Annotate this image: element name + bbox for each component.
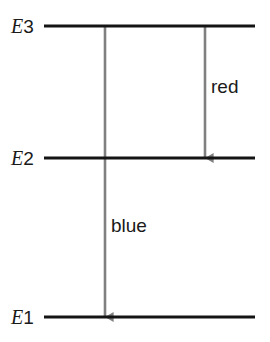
red-transition-label: red	[211, 77, 238, 96]
energy-level-label-e3: E3	[11, 16, 34, 36]
energy-level-label-e1: E1	[11, 307, 34, 327]
energy-index-e2: 2	[23, 148, 34, 169]
energy-level-lines	[44, 26, 255, 317]
energy-symbol-e3: E	[11, 15, 23, 37]
energy-symbol-e1: E	[11, 306, 23, 328]
energy-index-e3: 3	[23, 16, 34, 37]
energy-index-e1: 1	[23, 307, 34, 328]
energy-level-label-e2: E2	[11, 148, 34, 168]
diagram-canvas	[0, 0, 270, 342]
transition-arrows	[105, 26, 205, 317]
energy-symbol-e2: E	[11, 147, 23, 169]
blue-transition-label: blue	[111, 216, 147, 235]
energy-level-diagram: E3 E2 E1 red blue	[0, 0, 270, 342]
